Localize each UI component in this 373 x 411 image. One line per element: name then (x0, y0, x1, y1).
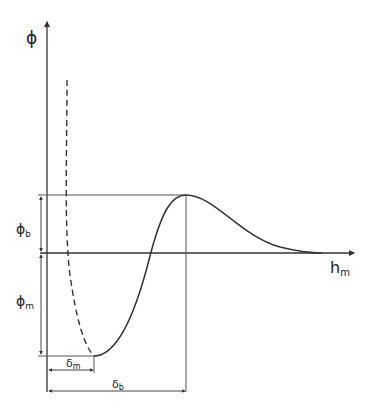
phi-m-label: ϕm (16, 293, 34, 311)
delta-m-label: δm (66, 357, 81, 371)
x-axis-label: hm (330, 258, 350, 278)
phi-b-label: ϕb (16, 221, 31, 239)
interaction-potential-diagram: ϕ hm ϕb ϕm δm δb (0, 0, 373, 411)
y-axis-label: ϕ (26, 28, 37, 48)
delta-b-label: δb (112, 378, 124, 392)
x-axis-label-sub: m (340, 267, 350, 278)
solid-curve (94, 195, 322, 356)
dashed-curve (66, 80, 94, 356)
